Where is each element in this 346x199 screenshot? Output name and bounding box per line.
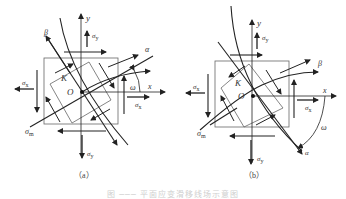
alpha-label: α xyxy=(305,149,309,157)
x-axis-label: x xyxy=(322,86,327,95)
sigma-y-bottom-label: σy xyxy=(257,155,263,164)
beta-label: β xyxy=(43,28,48,37)
origin-label: O xyxy=(238,91,245,101)
origin-label: O xyxy=(67,87,74,97)
point-k-label: K xyxy=(60,73,68,83)
figure-caption: 图 ─── 平面应变滑移线场示意图 xyxy=(0,188,346,199)
omega-label: ω xyxy=(321,123,327,132)
sigma-y-top-label: σy xyxy=(262,34,268,43)
panel-b-caption: （b） xyxy=(244,169,264,180)
origin-point xyxy=(251,94,255,98)
y-axis-label: y xyxy=(256,18,261,28)
alpha-label: α xyxy=(145,45,150,54)
x-axis-label: x xyxy=(147,82,152,91)
panel-a-caption: （a） xyxy=(74,169,94,180)
alpha-slip-curve xyxy=(231,6,302,151)
beta-label: β xyxy=(317,59,322,68)
sigma-x-left-label: σx xyxy=(22,79,28,88)
y-axis-label: y xyxy=(85,13,90,23)
slip-line-diagram: y x α β ω K O σy σx σx σm σy xyxy=(0,0,346,199)
origin-point xyxy=(80,90,84,94)
sigma-m-label: σm xyxy=(25,127,34,137)
panel-a xyxy=(15,14,165,158)
omega-label: ω xyxy=(130,83,136,92)
sigma-x-left-label: σx xyxy=(193,83,199,92)
omega-arc xyxy=(298,96,325,148)
panel-b xyxy=(186,6,336,164)
beta-slip-curve xyxy=(200,72,318,130)
sigma-y-top-label: σy xyxy=(92,32,98,41)
sigma-y-bottom-label: σy xyxy=(87,150,93,159)
sigma-x-right-label: σx xyxy=(305,104,311,113)
point-k-label: K xyxy=(234,78,242,88)
sigma-x-right-label: σx xyxy=(135,101,141,110)
sigma-m-label: σm xyxy=(197,129,206,139)
